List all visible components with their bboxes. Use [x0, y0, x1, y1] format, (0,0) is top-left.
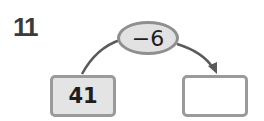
answer-box[interactable] — [182, 75, 248, 117]
start-number: 41 — [68, 84, 97, 108]
start-number-box: 41 — [50, 75, 116, 117]
left-curve — [82, 40, 120, 74]
right-curve-arrow — [177, 44, 213, 68]
operation-oval: −6 — [117, 21, 179, 55]
operation-label: −6 — [132, 26, 164, 51]
